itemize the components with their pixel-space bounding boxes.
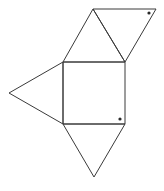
- top-right-triangle-face: [93, 9, 156, 62]
- left-triangle-face: [9, 62, 63, 124]
- top-triangle-face: [63, 9, 125, 62]
- bottom-triangle-face: [63, 124, 125, 177]
- square-face: [63, 62, 125, 124]
- dot-marker-square: [118, 117, 121, 120]
- dot-marker-top: [147, 11, 150, 14]
- pyramid-net-diagram: [0, 0, 164, 191]
